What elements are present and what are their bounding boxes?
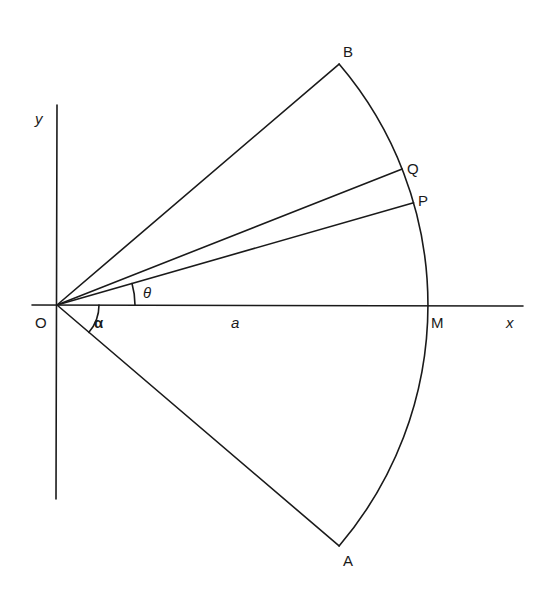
point-A-label: A bbox=[343, 552, 353, 569]
radius-label: a bbox=[231, 314, 239, 331]
radius-OB bbox=[57, 64, 339, 305]
y-axis bbox=[56, 105, 57, 499]
theta-angle-mark bbox=[132, 284, 135, 306]
point-B-label: B bbox=[343, 43, 353, 60]
origin-label: O bbox=[35, 314, 47, 331]
sector-diagram: y x O B Q P M A θ α a bbox=[0, 0, 553, 593]
point-P-label: P bbox=[418, 192, 428, 209]
radius-OQ bbox=[57, 169, 402, 305]
theta-label: θ bbox=[143, 284, 151, 301]
alpha-label: α bbox=[94, 314, 104, 331]
point-Q-label: Q bbox=[407, 160, 419, 177]
x-axis bbox=[32, 305, 523, 306]
y-axis-label: y bbox=[34, 110, 44, 127]
radius-OP bbox=[57, 203, 414, 305]
x-axis-label: x bbox=[505, 314, 514, 331]
radius-OA bbox=[57, 305, 339, 546]
point-M-label: M bbox=[431, 314, 444, 331]
